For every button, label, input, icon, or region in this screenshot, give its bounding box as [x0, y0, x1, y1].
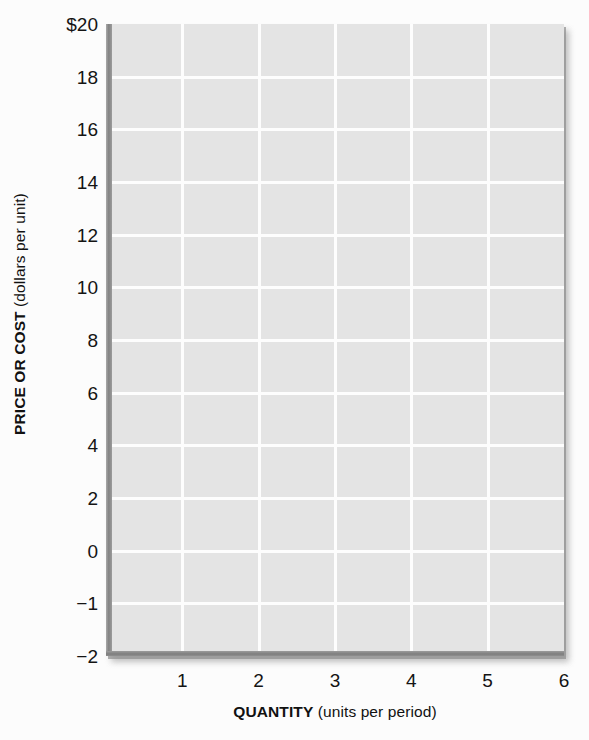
y-axis-spine: [106, 24, 112, 656]
y-axis-tick-label: 10: [28, 278, 98, 297]
y-axis-tick-labels: $20181614121086420−1−2: [20, 24, 98, 656]
x-axis-title: QUANTITY (units per period): [106, 703, 564, 721]
plot-area-wrapper: [106, 24, 564, 656]
x-axis-tick-label: 3: [315, 671, 355, 690]
x-axis-tick-label: 6: [544, 671, 584, 690]
plot-area[interactable]: [106, 24, 564, 656]
y-axis-tick-label: $20: [28, 15, 98, 34]
chart-figure: PRICE OR COST (dollars per unit) $201816…: [0, 0, 589, 740]
x-axis-title-main: QUANTITY: [233, 703, 313, 720]
y-axis-tick-label: 8: [28, 331, 98, 350]
vertical-gridline: [181, 24, 184, 656]
y-axis-tick-label: 16: [28, 120, 98, 139]
vertical-gridline: [334, 24, 337, 656]
x-axis-tick-label: 1: [162, 671, 202, 690]
x-axis-title-units: (units per period): [313, 703, 436, 720]
y-axis-tick-label: 12: [28, 225, 98, 244]
y-axis-tick-label: 6: [28, 383, 98, 402]
y-axis-tick-label: 18: [28, 67, 98, 86]
y-axis-tick-label: −1: [28, 594, 98, 613]
y-axis-tick-label: −2: [28, 647, 98, 666]
vertical-gridline: [487, 24, 490, 656]
vertical-gridline: [258, 24, 261, 656]
y-axis-tick-label: 0: [28, 541, 98, 560]
x-axis-tick-label: 4: [391, 671, 431, 690]
vertical-gridline: [410, 24, 413, 656]
x-axis-spine: [106, 651, 564, 656]
y-axis-tick-label: 2: [28, 489, 98, 508]
x-axis-tick-label: 5: [468, 671, 508, 690]
x-axis-tick-labels: 123456: [106, 671, 576, 697]
y-axis-tick-label: 4: [28, 436, 98, 455]
x-axis-tick-label: 2: [239, 671, 279, 690]
y-axis-tick-label: 14: [28, 173, 98, 192]
